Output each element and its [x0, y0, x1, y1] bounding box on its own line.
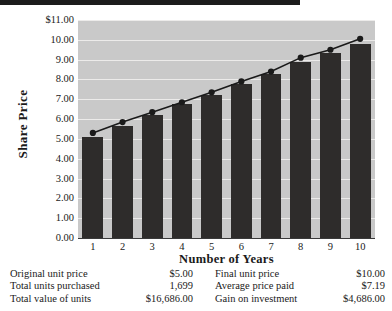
trend-line-marker — [327, 47, 333, 53]
trend-line-marker — [119, 119, 125, 125]
y-axis-tick-labels: $11.0010.009.008.007.006.005.004.003.002… — [18, 20, 74, 238]
trend-line-series — [78, 20, 375, 238]
x-axis-line — [78, 238, 375, 239]
share-price-chart-figure: Share Price $11.0010.009.008.007.006.005… — [0, 0, 392, 311]
y-axis-tick: 10.00 — [18, 35, 74, 45]
trend-line-marker — [268, 68, 274, 74]
trend-line-marker — [357, 36, 363, 42]
y-axis-tick: 2.00 — [18, 193, 74, 203]
summary-left-value: $16,686.00 — [118, 293, 193, 305]
summary-left-value: 1,699 — [118, 280, 193, 292]
summary-column-gap — [193, 280, 215, 292]
trend-line-marker — [238, 78, 244, 84]
summary-column-gap — [193, 268, 215, 280]
plot-area — [78, 20, 375, 238]
y-axis-tick: 0.00 — [18, 233, 74, 243]
summary-column-gap — [193, 293, 215, 305]
summary-right-value: $7.19 — [310, 280, 385, 292]
summary-right-value: $10.00 — [310, 268, 385, 280]
summary-left-label: Total value of units — [10, 293, 118, 305]
trend-line-marker — [90, 130, 96, 136]
x-axis-title: Number of Years — [78, 252, 375, 267]
y-axis-tick: 1.00 — [18, 213, 74, 223]
summary-left-value: $5.00 — [118, 268, 193, 280]
summary-right-label: Gain on investment — [215, 293, 310, 305]
trend-line-markers — [90, 36, 364, 136]
y-axis-tick: 8.00 — [18, 74, 74, 84]
summary-right-value: $4,686.00 — [310, 293, 385, 305]
summary-table: Original unit price$5.00Final unit price… — [10, 268, 385, 305]
summary-right-label: Average price paid — [215, 280, 310, 292]
summary-left-label: Original unit price — [10, 268, 118, 280]
trend-line-marker — [179, 99, 185, 105]
trend-line-path — [93, 39, 360, 133]
y-axis-tick: 7.00 — [18, 94, 74, 104]
trend-line-marker — [298, 55, 304, 61]
summary-right-label: Final unit price — [215, 268, 310, 280]
trend-line-marker — [149, 109, 155, 115]
y-axis-tick: 9.00 — [18, 55, 74, 65]
summary-left-label: Total units purchased — [10, 280, 118, 292]
y-axis-tick: 3.00 — [18, 174, 74, 184]
y-axis-tick: 6.00 — [18, 114, 74, 124]
y-axis-tick: 5.00 — [18, 134, 74, 144]
y-axis-tick: $11.00 — [18, 15, 74, 25]
trend-line-marker — [209, 89, 215, 95]
y-axis-tick: 4.00 — [18, 154, 74, 164]
